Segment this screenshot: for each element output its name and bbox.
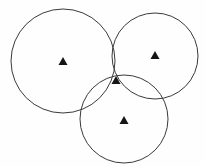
diagram-background <box>0 0 206 166</box>
diagram-container <box>0 0 206 166</box>
circles-diagram-canvas <box>0 0 206 166</box>
